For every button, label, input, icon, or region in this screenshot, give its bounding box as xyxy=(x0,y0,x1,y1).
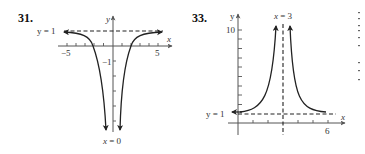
graph-31-right-branch-lower xyxy=(120,46,131,130)
figure-canvas: 31. x −5 5 y −1 xyxy=(0,0,365,154)
graph-33-y-tick-10: 10 xyxy=(226,25,236,35)
graph-33-y-ticks xyxy=(238,30,242,105)
graph-31-right-branch-upper xyxy=(131,32,162,46)
graph-33-h-asymptote-label: y = 1 xyxy=(206,109,225,119)
graph-31-number: 31. xyxy=(18,11,33,25)
graph-31-y-tick-neg1: −1 xyxy=(102,57,112,67)
graph-31-x-tick-5: 5 xyxy=(155,48,160,58)
graph-31-x-tick-neg5: −5 xyxy=(61,48,71,58)
graph-33-right-branch xyxy=(290,26,326,112)
graph-33-number: 33. xyxy=(192,11,207,25)
graph-31-v-asymptote-label: x = 0 xyxy=(102,136,122,146)
graph-33: 33. x 6 y 10 x = xyxy=(192,11,345,136)
graph-33-y-axis-label: y xyxy=(230,11,235,21)
edge-artifacts xyxy=(358,12,360,80)
graph-31-h-asymptote-label: y = 1 xyxy=(37,26,56,36)
graph-33-v-asymptote-label: x = 3 xyxy=(273,11,293,21)
graph-33-x-tick-6: 6 xyxy=(325,126,330,136)
graph-33-x-axis-label: x xyxy=(340,112,345,122)
graph-31-y-axis-label: y xyxy=(105,14,110,24)
graph-33-left-branch xyxy=(240,26,276,112)
graph-31-x-axis-label: x xyxy=(166,34,171,44)
graph-31: 31. x −5 5 y −1 xyxy=(18,11,172,146)
graph-31-left-branch-upper xyxy=(64,32,93,46)
